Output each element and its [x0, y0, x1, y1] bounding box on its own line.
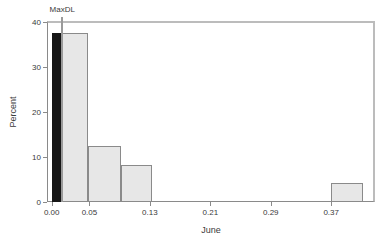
x-tick-label: 0.05	[82, 208, 98, 217]
x-tick-mark	[52, 202, 53, 206]
histogram-bar	[88, 146, 121, 202]
y-axis-title: Percent	[8, 96, 18, 127]
y-tick-label: 0	[37, 198, 41, 207]
histogram-bar	[121, 165, 152, 202]
x-tick-label: 0.21	[203, 208, 219, 217]
nondetect-bar	[52, 33, 61, 202]
y-tick-label: 20	[32, 107, 41, 116]
maxdl-label: MaxDL	[50, 5, 75, 14]
histogram-chart: MaxDL 0102030400.000.050.130.210.290.37 …	[0, 0, 391, 246]
y-tick-label: 30	[32, 62, 41, 71]
x-tick-mark	[89, 202, 90, 206]
y-tick-mark	[43, 22, 47, 23]
y-tick-mark	[43, 202, 47, 203]
x-tick-label: 0.00	[44, 208, 60, 217]
x-tick-label: 0.29	[263, 208, 279, 217]
y-tick-mark	[43, 112, 47, 113]
x-tick-mark	[331, 202, 332, 206]
y-tick-label: 40	[32, 17, 41, 26]
x-tick-label: 0.37	[323, 208, 339, 217]
x-tick-label: 0.13	[142, 208, 158, 217]
histogram-bar	[331, 183, 363, 202]
x-axis-title: June	[201, 225, 221, 235]
y-tick-label: 10	[32, 152, 41, 161]
x-tick-mark	[150, 202, 151, 206]
y-tick-mark	[43, 157, 47, 158]
x-tick-mark	[210, 202, 211, 206]
y-tick-mark	[43, 67, 47, 68]
x-tick-mark	[271, 202, 272, 206]
maxdl-reference-line	[61, 17, 63, 202]
